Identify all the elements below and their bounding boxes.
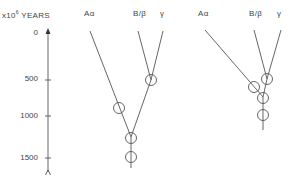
axis-arrow-icon xyxy=(46,28,51,34)
left-b-beta-branch xyxy=(138,31,151,80)
right-tree xyxy=(205,30,281,130)
node-circle xyxy=(114,103,125,114)
diagram-canvas xyxy=(0,0,295,177)
left-gamma-branch xyxy=(151,31,163,80)
right-a-alpha-branch xyxy=(205,30,263,97)
right-gamma-branch xyxy=(267,30,281,79)
left-bg-stem xyxy=(131,80,151,137)
left-a-alpha-branch xyxy=(90,31,131,137)
time-axis xyxy=(45,28,51,175)
left-tree xyxy=(90,31,163,168)
right-b-beta-branch xyxy=(254,30,267,79)
right-bg-stem xyxy=(263,79,267,97)
